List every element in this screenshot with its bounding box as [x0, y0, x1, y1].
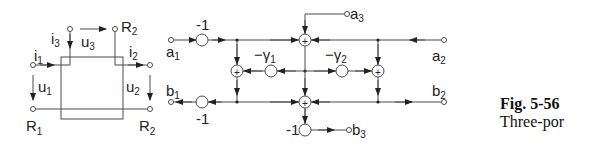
gamma1-gain-node [265, 65, 277, 77]
R2-top-label: R2 [121, 18, 138, 37]
R2-bottom-label: R2 [139, 117, 156, 137]
gamma2-gain-node [336, 65, 348, 77]
a2-label: a2 [432, 47, 446, 66]
b1-label: b1 [166, 82, 180, 101]
three-port-circuit: i1 i3 u3 R2 i2 u1 u2 R1 R2 [26, 18, 156, 137]
a3-branch [305, 14, 344, 34]
u3-label: u3 [81, 33, 95, 52]
a1-label: a1 [166, 43, 180, 62]
b3-terminal [347, 128, 352, 133]
sum-node-top-symbol: + [302, 36, 308, 47]
gamma2-label: −γ2 [325, 46, 347, 65]
port2-bottom-terminal [148, 107, 153, 112]
port3-right-terminal [113, 27, 118, 32]
b3-label: b3 [352, 121, 366, 140]
a1-terminal [169, 38, 174, 43]
port3-left-lead [61, 32, 70, 65]
a3-terminal [345, 12, 350, 17]
sum-node-bottom-symbol: + [302, 98, 308, 109]
b2-label: b2 [432, 82, 446, 101]
a3-label: a3 [350, 5, 364, 24]
signal-flow-graph: + + + [166, 5, 447, 140]
u2-label: u2 [126, 78, 140, 97]
junction-dot [376, 100, 379, 103]
i2-label: i2 [129, 43, 138, 62]
sum-node-left-symbol: + [234, 67, 240, 78]
R1-label: R1 [26, 117, 43, 137]
three-port-box [61, 57, 123, 119]
a2-terminal [442, 38, 447, 43]
figure-caption-text: Three-por [500, 113, 564, 131]
junction-dot [235, 100, 238, 103]
u1-label: u1 [38, 78, 52, 97]
port2-top-terminal [148, 63, 153, 68]
sum-node-right-symbol: + [375, 67, 381, 78]
junction-dot [376, 38, 379, 41]
a1-gain-label: -1 [196, 16, 209, 33]
gamma1-label: −γ1 [254, 46, 276, 65]
i1-label: i1 [34, 47, 43, 66]
b3-gain-label: -1 [286, 121, 299, 138]
b1-gain-node [196, 96, 208, 108]
b1-terminal [169, 100, 174, 105]
figure-caption: Fig. 5-56 Three-por [500, 95, 564, 131]
b3-gain-node [299, 124, 311, 136]
port1-bottom-terminal [31, 107, 36, 112]
port3-right-lead [115, 32, 123, 65]
b1-gain-label: -1 [196, 110, 209, 127]
junction-dot [235, 38, 238, 41]
figure-number: Fig. 5-56 [500, 95, 564, 113]
i3-label: i3 [51, 30, 60, 49]
port3-left-terminal [68, 27, 73, 32]
a1-gain-node [196, 34, 208, 46]
